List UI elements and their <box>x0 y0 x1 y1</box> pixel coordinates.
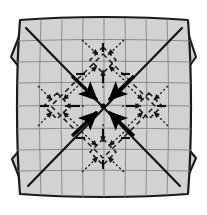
figure-container <box>0 0 207 215</box>
center-node <box>100 103 105 108</box>
mesh-diagram <box>0 0 207 215</box>
